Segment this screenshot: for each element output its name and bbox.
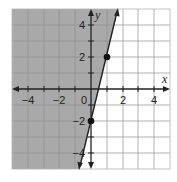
x-tick-label: −4 [22,94,35,106]
y-tick-label: −2 [72,115,85,127]
y-tick-label: 4 [79,19,85,31]
y-axis-label: y [94,8,101,22]
y-tick-label: 2 [79,51,85,63]
point-1-2 [104,54,111,61]
x-tick-label: 4 [151,94,157,106]
point-0-neg2 [88,118,95,125]
x-tick-label: 2 [120,94,126,106]
inequality-graph: x y −4 −2 0 2 4 4 2 −2 −4 [0,0,177,182]
origin-label: 0 [81,94,87,106]
x-tick-label: −2 [53,94,66,106]
y-tick-label: −4 [72,147,85,159]
x-axis-label: x [161,72,168,86]
